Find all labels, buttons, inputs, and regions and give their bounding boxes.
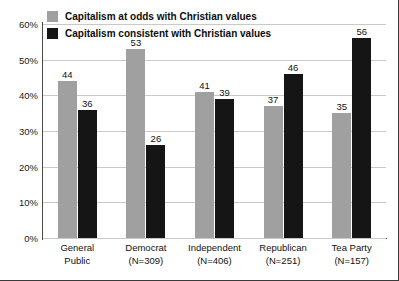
y-axis-tick-label: 40% <box>2 90 38 101</box>
gridline <box>43 238 386 239</box>
y-axis-tick-label: 10% <box>2 197 38 208</box>
bar-value-label: 26 <box>141 133 171 144</box>
bar <box>352 38 371 238</box>
y-axis-tick-label: 50% <box>2 54 38 65</box>
legend-item: Capitalism at odds with Christian values <box>47 9 271 24</box>
bar-group: 4436 <box>58 24 97 238</box>
x-axis-category-label: Republican(N=251) <box>249 241 318 267</box>
bar-group: 4139 <box>195 24 234 238</box>
bar <box>78 110 97 238</box>
bar-chart: 0%10%20%30%40%50%60% 4436532641393746355… <box>0 0 399 281</box>
y-axis-tick-label: 60% <box>2 19 38 30</box>
bar <box>264 106 283 238</box>
bar-group: 5326 <box>126 24 165 238</box>
legend-label: Capitalism consistent with Christian val… <box>65 28 271 39</box>
x-axis-category-label-line: Independent <box>180 241 249 254</box>
x-axis-category-label-line: Republican <box>249 241 318 254</box>
bar <box>332 113 351 238</box>
bar <box>215 99 234 238</box>
bar <box>284 74 303 238</box>
x-axis-category-label-line: (N=251) <box>249 254 318 267</box>
y-axis-tick-label: 30% <box>2 126 38 137</box>
x-axis-category-label-line: General <box>43 241 112 254</box>
x-axis-category-label-line: (N=157) <box>317 254 386 267</box>
bar-value-label: 36 <box>72 98 102 109</box>
x-axis-category-label: Democrat(N=309) <box>112 241 181 267</box>
x-axis-category-label: GeneralPublic <box>43 241 112 267</box>
bar-group: 3746 <box>264 24 303 238</box>
bar-group: 3556 <box>332 24 371 238</box>
legend-swatch-icon <box>47 28 58 39</box>
y-axis-tick-labels: 0%10%20%30%40%50%60% <box>0 24 38 238</box>
x-axis-category-label-line: (N=406) <box>180 254 249 267</box>
y-axis-tick-label: 20% <box>2 161 38 172</box>
x-axis-category-label-line: Tea Party <box>317 241 386 254</box>
bar <box>146 145 165 238</box>
bar-value-label: 44 <box>52 69 82 80</box>
x-axis-category-label-line: (N=309) <box>112 254 181 267</box>
legend-item: Capitalism consistent with Christian val… <box>47 26 271 41</box>
x-axis-category-labels: GeneralPublicDemocrat(N=309)Independent(… <box>43 241 386 281</box>
x-axis-category-label-line: Democrat <box>112 241 181 254</box>
x-axis-category-label-line: Public <box>43 254 112 267</box>
bar-value-label: 39 <box>210 87 240 98</box>
chart-legend: Capitalism at odds with Christian values… <box>47 9 271 43</box>
legend-label: Capitalism at odds with Christian values <box>65 11 257 22</box>
bar-value-label: 56 <box>347 26 377 37</box>
plot-area: 44365326413937463556 <box>43 24 386 238</box>
x-axis-category-label: Independent(N=406) <box>180 241 249 267</box>
x-axis-category-label: Tea Party(N=157) <box>317 241 386 267</box>
bar <box>195 92 214 238</box>
bar-value-label: 46 <box>278 62 308 73</box>
y-axis-tick-label: 0% <box>2 233 38 244</box>
legend-swatch-icon <box>47 11 58 22</box>
